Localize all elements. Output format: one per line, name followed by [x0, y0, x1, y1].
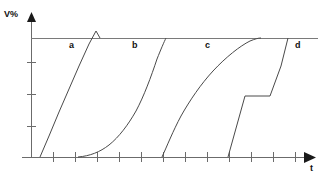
curve-d — [228, 38, 288, 157]
chart-container: V% t a b c d — [0, 0, 331, 181]
x-axis-group — [22, 152, 316, 163]
curve-c — [162, 38, 261, 157]
curve-label-c: c — [205, 41, 210, 50]
curve-label-b: b — [132, 41, 138, 50]
curve-label-a: a — [69, 41, 74, 50]
y-axis-title: V% — [4, 10, 18, 19]
chart-canvas — [0, 0, 331, 181]
curve-label-d: d — [295, 41, 301, 50]
x-axis-title: t — [310, 164, 313, 173]
x-axis-arrow-icon — [304, 152, 316, 163]
y-axis-arrow-icon — [27, 12, 36, 22]
y-axis-group — [27, 12, 36, 158]
curve-b — [78, 38, 166, 157]
